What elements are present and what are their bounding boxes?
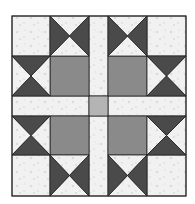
sashing-right <box>108 96 186 116</box>
sashing-left <box>12 96 89 116</box>
sashing-bottom <box>89 116 108 196</box>
medium-square-bottom-left <box>50 116 89 155</box>
medium-square-bottom-right <box>108 116 147 155</box>
quilt-block <box>0 0 195 204</box>
block-group <box>12 16 186 196</box>
sashing-top <box>89 16 108 96</box>
corner-square-bottom-left <box>12 155 50 196</box>
corner-square-bottom-right <box>147 155 186 196</box>
corner-square-top-left <box>12 16 50 56</box>
center-square <box>89 96 108 116</box>
medium-square-top-left <box>50 56 89 96</box>
medium-square-top-right <box>108 56 147 96</box>
corner-square-top-right <box>147 16 186 56</box>
